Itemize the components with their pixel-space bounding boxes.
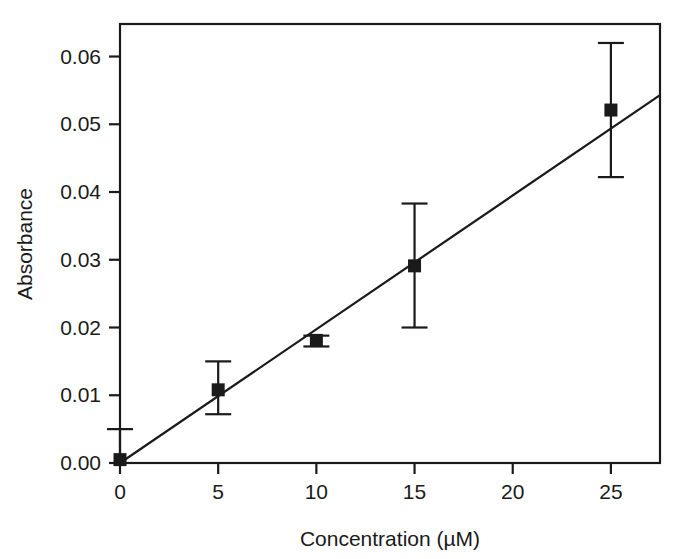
y-tick-label-0.04: 0.04 xyxy=(60,180,101,203)
regression-fit-line xyxy=(120,95,660,463)
y-tick-label-0.00: 0.00 xyxy=(60,451,101,474)
data-point-markers xyxy=(114,104,618,467)
absorbance-calibration-chart: 0510152025 0.000.010.020.030.040.050.06 … xyxy=(0,0,687,559)
y-tick-label-0.01: 0.01 xyxy=(60,383,101,406)
x-tick-label-15: 15 xyxy=(403,480,426,503)
y-axis-ticks: 0.000.010.020.030.040.050.06 xyxy=(60,45,120,474)
plot-frame xyxy=(120,24,660,463)
x-tick-label-25: 25 xyxy=(599,480,622,503)
data-point-marker xyxy=(310,334,323,347)
x-tick-label-10: 10 xyxy=(305,480,328,503)
error-bars xyxy=(107,43,624,463)
data-point-marker xyxy=(114,453,127,466)
data-point-marker xyxy=(408,259,421,272)
y-tick-label-0.06: 0.06 xyxy=(60,45,101,68)
x-tick-label-20: 20 xyxy=(501,480,524,503)
y-tick-label-0.02: 0.02 xyxy=(60,316,101,339)
fit-line xyxy=(120,95,660,463)
data-point-marker xyxy=(604,104,617,117)
figure-container: 0510152025 0.000.010.020.030.040.050.06 … xyxy=(0,0,687,559)
y-axis-title: Absorbance xyxy=(13,188,36,300)
x-tick-label-0: 0 xyxy=(114,480,126,503)
data-point-marker xyxy=(212,383,225,396)
y-tick-label-0.05: 0.05 xyxy=(60,112,101,135)
y-tick-label-0.03: 0.03 xyxy=(60,248,101,271)
x-axis-title: Concentration (µM) xyxy=(300,527,480,550)
x-tick-label-5: 5 xyxy=(212,480,224,503)
x-axis-ticks: 0510152025 xyxy=(114,463,622,503)
